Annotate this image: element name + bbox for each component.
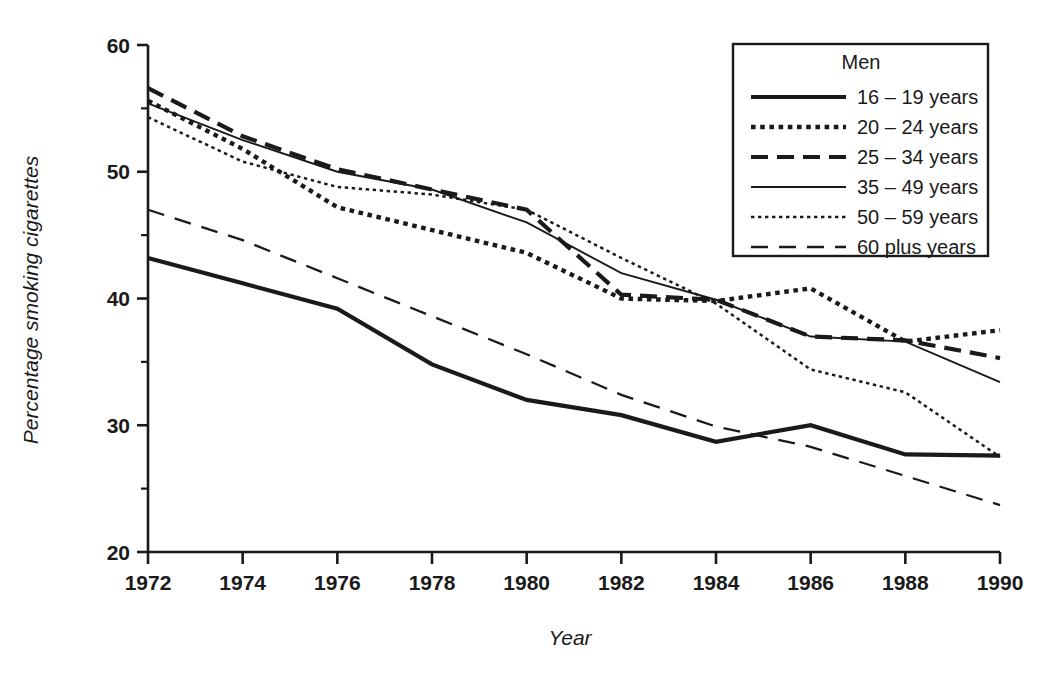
x-tick-label: 1974 (219, 571, 266, 594)
y-tick-label: 60 (107, 34, 130, 57)
x-axis-title: Year (548, 626, 592, 649)
y-axis-title: Percentage smoking cigarettes (19, 155, 42, 444)
legend-label-6: 60 plus years (857, 236, 976, 258)
x-tick-label: 1986 (787, 571, 834, 594)
x-tick-label: 1980 (503, 571, 550, 594)
y-tick-label: 30 (107, 414, 130, 437)
series-line-1 (148, 258, 1000, 456)
x-tick-label: 1976 (314, 571, 361, 594)
y-tick-label: 50 (107, 160, 130, 183)
x-tick-label: 1978 (409, 571, 456, 594)
y-tick-label: 20 (107, 541, 130, 564)
x-tick-label: 1988 (882, 571, 929, 594)
y-tick-label: 40 (107, 287, 130, 310)
x-tick-label: 1984 (693, 571, 740, 594)
line-chart: 2030405060197219741976197819801982198419… (0, 0, 1048, 683)
legend-label-1: 16 – 19 years (857, 86, 978, 108)
x-tick-label: 1982 (598, 571, 645, 594)
legend-label-2: 20 – 24 years (857, 116, 978, 138)
legend-title: Men (842, 51, 881, 73)
legend-label-4: 35 – 49 years (857, 176, 978, 198)
legend-label-5: 50 – 59 years (857, 206, 978, 228)
legend-label-3: 25 – 34 years (857, 146, 978, 168)
x-tick-label: 1990 (977, 571, 1024, 594)
chart-canvas: 2030405060197219741976197819801982198419… (0, 0, 1048, 683)
x-tick-label: 1972 (125, 571, 172, 594)
